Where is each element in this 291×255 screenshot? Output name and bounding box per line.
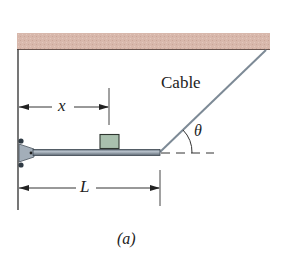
figure-caption: (a): [117, 231, 136, 247]
block: [100, 135, 119, 149]
angle-arc: [183, 130, 192, 153]
beam: [33, 150, 160, 156]
angle-label: θ: [194, 123, 202, 139]
cable-label: Cable: [161, 74, 201, 91]
diagram-canvas: [0, 0, 291, 255]
ceiling: [17, 33, 270, 50]
x-dimension-label: x: [58, 97, 66, 114]
pin-support: [18, 138, 34, 167]
l-dimension: [19, 170, 160, 206]
length-dimension-label: L: [80, 178, 89, 195]
cable: [160, 50, 266, 152]
